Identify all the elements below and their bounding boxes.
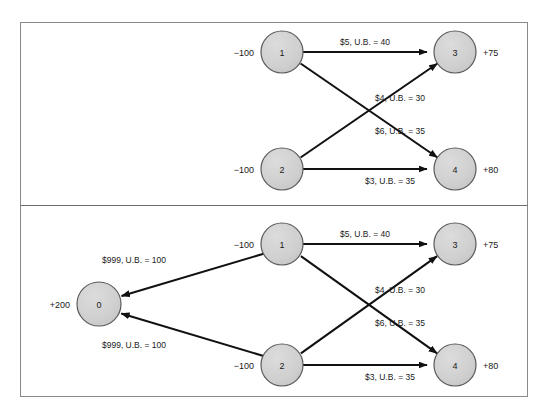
node-1-bottom: 1 — [261, 223, 303, 265]
node-3-bottom: 3 — [434, 223, 476, 265]
node-2-bottom: 2 — [261, 344, 303, 386]
node-2-supply-label: −100 — [234, 165, 254, 175]
node-3-label: 3 — [452, 48, 457, 58]
node-0-label: 0 — [96, 300, 101, 310]
node-3: 3 — [434, 31, 476, 73]
network-flow-figure: 1 2 3 4 −100 −100 +75 +80 $5, U.B. = 40 … — [0, 0, 549, 411]
node-3-bottom-supply-label: +75 — [483, 240, 498, 250]
node-4-label: 4 — [452, 165, 457, 175]
node-1-bottom-supply-label: −100 — [234, 240, 254, 250]
node-1-label: 1 — [279, 48, 284, 58]
arc-1-to-3-bottom-label: $5, U.B. = 40 — [340, 229, 390, 239]
arc-2-to-4-label: $3, U.B. = 35 — [365, 176, 415, 186]
node-2: 2 — [261, 148, 303, 190]
figure-frame — [21, 23, 528, 397]
node-2-bottom-label: 2 — [279, 361, 284, 371]
arc-1-to-4-label: $6, U.B. = 35 — [375, 126, 425, 136]
node-3-bottom-label: 3 — [452, 240, 457, 250]
node-3-supply-label: +75 — [483, 48, 498, 58]
figure-canvas: 1 2 3 4 −100 −100 +75 +80 $5, U.B. = 40 … — [0, 0, 549, 411]
node-4: 4 — [434, 148, 476, 190]
node-4-bottom-label: 4 — [452, 361, 457, 371]
arc-2-to-3-label: $4, U.B. = 30 — [375, 93, 425, 103]
node-1-supply-label: −100 — [234, 48, 254, 58]
arc-2-to-4-bottom-label: $3, U.B. = 35 — [365, 372, 415, 382]
arc-1-to-0-label: $999, U.B. = 100 — [102, 255, 166, 265]
node-2-label: 2 — [279, 165, 284, 175]
arc-1-to-3-label: $5, U.B. = 40 — [340, 37, 390, 47]
node-2-bottom-supply-label: −100 — [234, 361, 254, 371]
arc-1-to-4-bottom-label: $6, U.B. = 35 — [375, 318, 425, 328]
node-4-bottom: 4 — [434, 344, 476, 386]
node-0-supply-label: +200 — [50, 300, 70, 310]
node-0: 0 — [77, 282, 121, 326]
arc-2-to-0-label: $999, U.B. = 100 — [102, 340, 166, 350]
arc-2-to-3-bottom-label: $4, U.B. = 30 — [375, 285, 425, 295]
node-1-bottom-label: 1 — [279, 240, 284, 250]
node-1: 1 — [261, 31, 303, 73]
node-4-bottom-supply-label: +80 — [483, 361, 498, 371]
node-4-supply-label: +80 — [483, 165, 498, 175]
